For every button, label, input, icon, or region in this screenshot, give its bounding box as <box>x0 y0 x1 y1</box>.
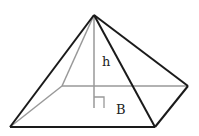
edge-right-base <box>155 86 188 127</box>
edge-apex-backright <box>94 15 188 86</box>
pyramid-diagram: h B <box>0 0 199 136</box>
edge-apex-frontleft <box>10 15 94 127</box>
base-label: B <box>116 102 126 117</box>
height-label: h <box>102 54 111 69</box>
right-angle-marker <box>94 97 104 108</box>
